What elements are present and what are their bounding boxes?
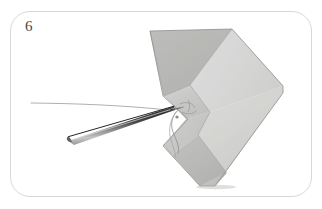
figure-root: 6 Instructional photo: a folded gray pap… bbox=[0, 0, 322, 209]
paper-needle-illustration bbox=[0, 0, 322, 209]
needle-eye-end bbox=[67, 136, 73, 142]
thread-knot bbox=[175, 115, 178, 118]
instructional-photo bbox=[0, 0, 322, 209]
thread-trailing-left bbox=[31, 103, 168, 110]
paper-shadow bbox=[196, 185, 236, 189]
needle-shaft bbox=[68, 106, 175, 145]
needle-highlight bbox=[71, 109, 174, 141]
needle-top-edge bbox=[69, 106, 174, 136]
step-number: 6 bbox=[25, 19, 33, 34]
sewing-needle bbox=[67, 106, 184, 145]
